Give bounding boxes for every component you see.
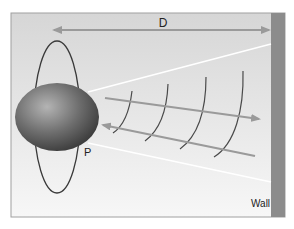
sonar-reflection-diagram: D P Wall bbox=[0, 0, 294, 229]
sphere bbox=[15, 83, 99, 151]
wall-label: Wall bbox=[251, 198, 270, 209]
distance-label: D bbox=[159, 16, 168, 30]
point-label: P bbox=[84, 146, 91, 158]
wall bbox=[271, 13, 285, 217]
